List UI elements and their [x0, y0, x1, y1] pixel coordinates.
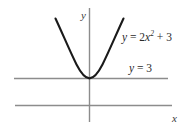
x-axis-label: x [172, 113, 177, 124]
parabola-equation-label: y = 2x2 + 3 [122, 32, 172, 44]
horizontal-line-equation-value: = 3 [134, 62, 152, 74]
horizontal-line-equation-label: y = 3 [129, 63, 152, 75]
parabola-equation-equals: = 2 [127, 31, 145, 43]
y-axis-label: y [81, 10, 86, 21]
parabola-equation-constant: + 3 [154, 31, 172, 43]
coordinate-plane-parabola-figure: y x y = 2x2 + 3 y = 3 [0, 0, 194, 130]
graph-canvas [0, 0, 194, 130]
